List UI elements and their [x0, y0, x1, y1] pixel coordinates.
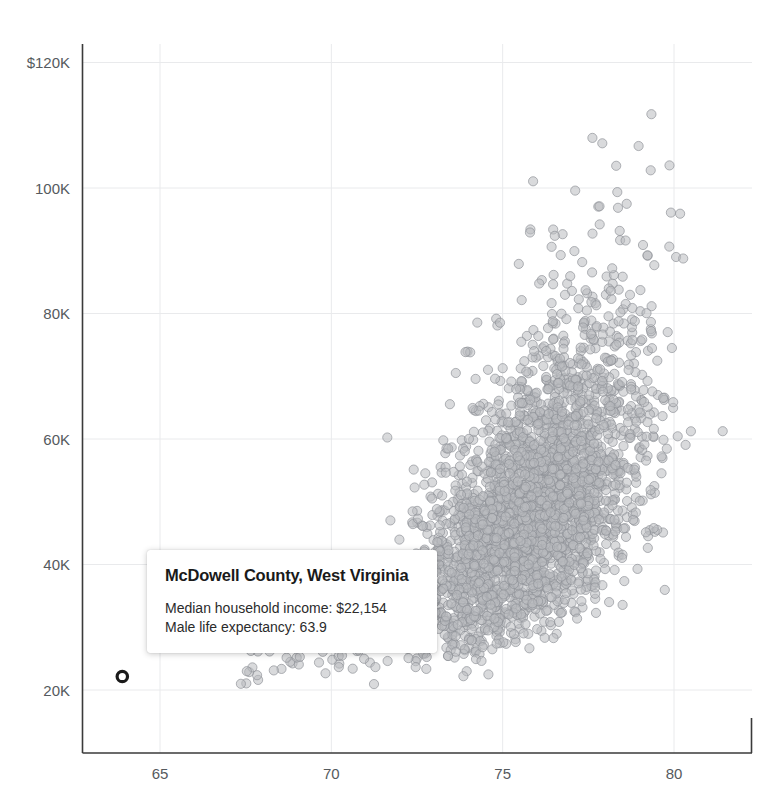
scatter-point[interactable] [513, 452, 522, 461]
scatter-point[interactable] [495, 318, 504, 327]
scatter-point[interactable] [647, 110, 656, 119]
scatter-point[interactable] [520, 503, 529, 512]
scatter-point[interactable] [657, 452, 666, 461]
scatter-point[interactable] [554, 452, 563, 461]
scatter-point[interactable] [635, 408, 644, 417]
scatter-point[interactable] [669, 398, 678, 407]
scatter-point[interactable] [495, 548, 504, 557]
scatter-point[interactable] [639, 386, 648, 395]
scatter-point[interactable] [490, 447, 499, 456]
scatter-point[interactable] [482, 592, 491, 601]
scatter-point[interactable] [521, 620, 530, 629]
scatter-point[interactable] [649, 524, 658, 533]
scatter-point[interactable] [477, 656, 486, 665]
scatter-point[interactable] [483, 365, 492, 374]
scatter-point[interactable] [547, 242, 556, 251]
scatter-point[interactable] [605, 598, 614, 607]
scatter-point[interactable] [438, 576, 447, 585]
scatter-point[interactable] [581, 286, 590, 295]
scatter-point[interactable] [598, 376, 607, 385]
scatter-point[interactable] [570, 421, 579, 430]
scatter-point[interactable] [464, 434, 473, 443]
scatter-point[interactable] [676, 209, 685, 218]
scatter-point[interactable] [442, 612, 451, 621]
scatter-point[interactable] [622, 199, 631, 208]
scatter-point[interactable] [570, 247, 579, 256]
scatter-point[interactable] [598, 330, 607, 339]
scatter-point[interactable] [594, 457, 603, 466]
scatter-point[interactable] [610, 565, 619, 574]
scatter-point[interactable] [498, 364, 507, 373]
scatter-point[interactable] [435, 521, 444, 530]
scatter-point[interactable] [630, 317, 639, 326]
scatter-point[interactable] [371, 663, 380, 672]
scatter-point[interactable] [574, 295, 583, 304]
scatter-point[interactable] [601, 496, 610, 505]
scatter-point[interactable] [508, 576, 517, 585]
scatter-point[interactable] [500, 540, 509, 549]
scatter-point[interactable] [556, 608, 565, 617]
scatter-point[interactable] [602, 526, 611, 535]
scatter-point[interactable] [539, 361, 548, 370]
scatter-point[interactable] [647, 327, 656, 336]
scatter-point[interactable] [499, 590, 508, 599]
scatter-point[interactable] [492, 639, 501, 648]
scatter-point[interactable] [633, 564, 642, 573]
scatter-point[interactable] [517, 296, 526, 305]
scatter-point[interactable] [598, 139, 607, 148]
scatter-point[interactable] [643, 376, 652, 385]
scatter-point[interactable] [383, 433, 392, 442]
scatter-point[interactable] [648, 387, 657, 396]
scatter-point[interactable] [575, 543, 584, 552]
scatter-point[interactable] [553, 542, 562, 551]
scatter-point[interactable] [444, 546, 453, 555]
scatter-point[interactable] [428, 494, 437, 503]
scatter-point[interactable] [618, 600, 627, 609]
scatter-point[interactable] [614, 317, 623, 326]
scatter-point[interactable] [595, 220, 604, 229]
scatter-point[interactable] [242, 667, 251, 676]
scatter-point[interactable] [568, 447, 577, 456]
scatter-point[interactable] [628, 335, 637, 344]
scatter-point[interactable] [643, 543, 652, 552]
scatter-point[interactable] [471, 606, 480, 615]
scatter-point[interactable] [511, 604, 520, 613]
scatter-point[interactable] [602, 539, 611, 548]
scatter-point[interactable] [500, 557, 509, 566]
scatter-point[interactable] [612, 161, 621, 170]
scatter-point[interactable] [473, 531, 482, 540]
scatter-point[interactable] [577, 360, 586, 369]
scatter-point[interactable] [599, 420, 608, 429]
scatter-point[interactable] [457, 575, 466, 584]
scatter-point[interactable] [544, 409, 553, 418]
scatter-point[interactable] [633, 428, 642, 437]
scatter-point[interactable] [525, 644, 534, 653]
scatter-point[interactable] [623, 405, 632, 414]
scatter-point[interactable] [550, 231, 559, 240]
scatter-point[interactable] [500, 487, 509, 496]
scatter-point[interactable] [606, 286, 615, 295]
scatter-point[interactable] [718, 427, 727, 436]
scatter-point[interactable] [646, 166, 655, 175]
scatter-point[interactable] [459, 503, 468, 512]
scatter-point[interactable] [538, 524, 547, 533]
scatter-point[interactable] [596, 554, 605, 563]
scatter-point[interactable] [409, 465, 418, 474]
scatter-point[interactable] [501, 512, 510, 521]
scatter-point[interactable] [556, 470, 565, 479]
scatter-point[interactable] [519, 629, 528, 638]
scatter-point[interactable] [439, 584, 448, 593]
scatter-point[interactable] [537, 557, 546, 566]
scatter-point[interactable] [456, 490, 465, 499]
scatter-point[interactable] [523, 426, 532, 435]
scatter-point[interactable] [590, 488, 599, 497]
scatter-point[interactable] [535, 279, 544, 288]
scatter-point[interactable] [557, 407, 566, 416]
scatter-point[interactable] [488, 513, 497, 522]
scatter-point[interactable] [640, 397, 649, 406]
scatter-point[interactable] [643, 418, 652, 427]
scatter-point[interactable] [635, 496, 644, 505]
scatter-point[interactable] [517, 575, 526, 584]
scatter-point[interactable] [559, 513, 568, 522]
scatter-point[interactable] [642, 456, 651, 465]
